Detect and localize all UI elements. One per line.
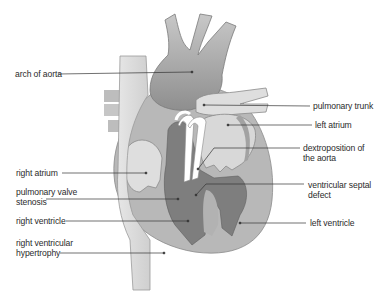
label-text: hypertrophy xyxy=(16,248,73,258)
label-text: pulmonary trunk xyxy=(313,101,373,111)
label-text: arch of aorta xyxy=(15,69,62,79)
label-text: left ventricle xyxy=(310,218,354,228)
label-pulmonary-valve-stenosis: pulmonary valve stenosis xyxy=(16,187,77,207)
label-text: right ventricle xyxy=(16,216,66,226)
right-atrium-chamber xyxy=(124,140,162,192)
label-left-ventricle: left ventricle xyxy=(310,218,354,228)
label-text: pulmonary valve xyxy=(16,187,77,197)
label-text: defect xyxy=(308,190,371,200)
label-text: right atrium xyxy=(16,168,58,178)
label-text: stenosis xyxy=(16,197,77,207)
tetralogy-of-fallot-diagram: arch of aorta right atrium pulmonary val… xyxy=(0,0,384,300)
label-text: ventricular septal xyxy=(308,180,371,190)
label-right-atrium: right atrium xyxy=(16,168,58,178)
label-text: right ventricular xyxy=(16,238,73,248)
label-text: the aorta xyxy=(303,153,364,163)
label-text: left atrium xyxy=(315,120,352,130)
label-right-ventricle: right ventricle xyxy=(16,216,66,226)
label-pulmonary-trunk: pulmonary trunk xyxy=(313,101,373,111)
label-arch-of-aorta: arch of aorta xyxy=(15,69,62,79)
label-ventricular-septal-defect: ventricular septal defect xyxy=(308,180,371,200)
pulmonary-veins-left xyxy=(104,90,120,132)
label-text: dextroposition of xyxy=(303,143,364,153)
label-dextroposition-of-aorta: dextroposition of the aorta xyxy=(303,143,364,163)
label-left-atrium: left atrium xyxy=(315,120,352,130)
label-right-ventricular-hypertrophy: right ventricular hypertrophy xyxy=(16,238,73,258)
